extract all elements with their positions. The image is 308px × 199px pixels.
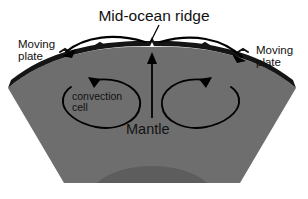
page-title: Mid-ocean ridge — [98, 7, 209, 24]
mid-ocean-ridge-diagram: Mid-ocean ridge Moving plate Moving plat… — [0, 0, 308, 199]
mantle-label: Mantle — [126, 121, 170, 137]
convection-cell-label-line2: cell — [72, 101, 88, 113]
moving-plate-left-label-line2: plate — [18, 50, 43, 62]
diagram-canvas: Mid-ocean ridge Moving plate Moving plat… — [0, 0, 308, 199]
leader-line-icon — [150, 25, 159, 43]
moving-plate-right-label-line1: Moving — [256, 44, 293, 56]
moving-plate-left-label-line1: Moving — [18, 38, 55, 50]
moving-plate-right-label-line2: plate — [256, 56, 281, 68]
